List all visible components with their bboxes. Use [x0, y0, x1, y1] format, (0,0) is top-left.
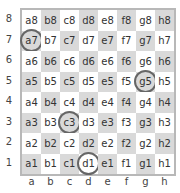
- square-a4[interactable]: a4: [22, 92, 41, 113]
- square-d6[interactable]: d6: [79, 51, 98, 72]
- square-c3[interactable]: c3: [60, 113, 79, 134]
- square-a2[interactable]: a2: [22, 133, 41, 154]
- square-d5[interactable]: d5: [79, 72, 98, 93]
- rank-label-4: 4: [3, 95, 15, 106]
- square-g1[interactable]: g1: [136, 154, 155, 175]
- square-c4[interactable]: c4: [60, 92, 79, 113]
- square-a3[interactable]: a3: [22, 113, 41, 134]
- square-b6[interactable]: b6: [41, 51, 60, 72]
- rank-label-3: 3: [3, 116, 15, 127]
- square-e5[interactable]: e5: [98, 72, 117, 93]
- square-b4[interactable]: b4: [41, 92, 60, 113]
- square-f6[interactable]: f6: [117, 51, 136, 72]
- file-label-b: b: [41, 176, 60, 187]
- square-c2[interactable]: c2: [60, 133, 79, 154]
- square-f2[interactable]: f2: [117, 133, 136, 154]
- rank-label-1: 1: [3, 157, 15, 168]
- chess-board: a8b8c8d8e8f8g8h8a7b7c7d7e7f7g7h7a6b6c6d6…: [20, 8, 176, 176]
- file-label-d: d: [79, 176, 98, 187]
- square-c6[interactable]: c6: [60, 51, 79, 72]
- square-b5[interactable]: b5: [41, 72, 60, 93]
- square-f3[interactable]: f3: [117, 113, 136, 134]
- square-e2[interactable]: e2: [98, 133, 117, 154]
- rank-label-6: 6: [3, 54, 15, 65]
- square-g3[interactable]: g3: [136, 113, 155, 134]
- square-h8[interactable]: h8: [155, 10, 174, 31]
- square-e8[interactable]: e8: [98, 10, 117, 31]
- file-label-f: f: [117, 176, 136, 187]
- file-label-g: g: [136, 176, 155, 187]
- square-e1[interactable]: e1: [98, 154, 117, 175]
- square-d4[interactable]: d4: [79, 92, 98, 113]
- square-h3[interactable]: h3: [155, 113, 174, 134]
- square-a8[interactable]: a8: [22, 10, 41, 31]
- square-d8[interactable]: d8: [79, 10, 98, 31]
- square-b1[interactable]: b1: [41, 154, 60, 175]
- rank-label-8: 8: [3, 13, 15, 24]
- square-d7[interactable]: d7: [79, 31, 98, 52]
- square-a5[interactable]: a5: [22, 72, 41, 93]
- square-c7[interactable]: c7: [60, 31, 79, 52]
- square-b2[interactable]: b2: [41, 133, 60, 154]
- square-g5[interactable]: g5: [136, 72, 155, 93]
- square-d1[interactable]: d1: [79, 154, 98, 175]
- square-b8[interactable]: b8: [41, 10, 60, 31]
- square-h7[interactable]: h7: [155, 31, 174, 52]
- file-label-e: e: [98, 176, 117, 187]
- file-label-c: c: [60, 176, 79, 187]
- square-e4[interactable]: e4: [98, 92, 117, 113]
- square-d3[interactable]: d3: [79, 113, 98, 134]
- square-f4[interactable]: f4: [117, 92, 136, 113]
- square-f1[interactable]: f1: [117, 154, 136, 175]
- square-e7[interactable]: e7: [98, 31, 117, 52]
- square-g4[interactable]: g4: [136, 92, 155, 113]
- square-c8[interactable]: c8: [60, 10, 79, 31]
- square-g7[interactable]: g7: [136, 31, 155, 52]
- rank-label-5: 5: [3, 75, 15, 86]
- square-g2[interactable]: g2: [136, 133, 155, 154]
- square-d2[interactable]: d2: [79, 133, 98, 154]
- square-f7[interactable]: f7: [117, 31, 136, 52]
- square-h1[interactable]: h1: [155, 154, 174, 175]
- square-a1[interactable]: a1: [22, 154, 41, 175]
- square-h5[interactable]: h5: [155, 72, 174, 93]
- square-a7[interactable]: a7: [22, 31, 41, 52]
- rank-label-2: 2: [3, 136, 15, 147]
- file-label-a: a: [22, 176, 41, 187]
- square-f8[interactable]: f8: [117, 10, 136, 31]
- rank-label-7: 7: [3, 34, 15, 45]
- square-h4[interactable]: h4: [155, 92, 174, 113]
- square-a6[interactable]: a6: [22, 51, 41, 72]
- square-g8[interactable]: g8: [136, 10, 155, 31]
- square-h6[interactable]: h6: [155, 51, 174, 72]
- square-e3[interactable]: e3: [98, 113, 117, 134]
- square-h2[interactable]: h2: [155, 133, 174, 154]
- square-b7[interactable]: b7: [41, 31, 60, 52]
- square-e6[interactable]: e6: [98, 51, 117, 72]
- square-g6[interactable]: g6: [136, 51, 155, 72]
- square-c5[interactable]: c5: [60, 72, 79, 93]
- file-label-h: h: [155, 176, 174, 187]
